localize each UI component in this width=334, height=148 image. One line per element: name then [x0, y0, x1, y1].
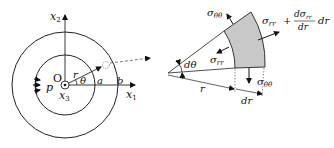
x3-label: x3	[59, 89, 70, 103]
thick-cylinder-cross-section: x2 x1 x3 O p r θ a b	[12, 10, 150, 138]
a-label: a	[97, 75, 103, 86]
infinitesimal-element-diagram: dθ r dr σθθ σθθ σrr σrr + dσrr dr dr	[168, 7, 330, 106]
diagram-canvas: x2 x1 x3 O p r θ a b dθ r dr σθθ σθθ σrr…	[0, 0, 334, 148]
x3-axis-dot-icon	[64, 84, 67, 87]
pressure-label: p	[46, 81, 53, 94]
svg-text:dσrr: dσrr	[294, 9, 313, 20]
x1-label: x1	[126, 88, 137, 102]
b-label: b	[117, 75, 123, 86]
pressure-arrows-icon	[33, 79, 40, 91]
dtheta-arc-icon	[179, 64, 182, 72]
x2-label: x2	[50, 10, 61, 24]
svg-text:+: +	[283, 15, 291, 26]
sigma-rr-outer-label: σrr + dσrr dr dr	[262, 9, 330, 32]
svg-text:dr: dr	[318, 15, 330, 26]
r-dimension-label: r	[200, 83, 206, 94]
svg-text:σrr: σrr	[262, 15, 276, 28]
theta-arc-icon	[76, 80, 78, 86]
dr-dimension-label: dr	[241, 95, 253, 106]
theta-label: θ	[80, 75, 86, 86]
sigma-rr-inner-label: σrr	[210, 54, 224, 67]
sigma-theta-bottom-label: σθθ	[257, 76, 273, 89]
element-marker	[103, 62, 110, 69]
sigma-theta-top-arrow	[227, 14, 233, 24]
sigma-theta-top-label: σθθ	[207, 7, 223, 20]
dashed-pointer	[110, 58, 150, 63]
dr-dimension-line	[236, 89, 262, 94]
lower-ray	[168, 68, 235, 73]
dtheta-label: dθ	[184, 59, 196, 70]
svg-text:dr: dr	[298, 22, 309, 32]
origin-label: O	[53, 72, 62, 85]
sigma-rr-inner-arrow	[217, 47, 229, 53]
